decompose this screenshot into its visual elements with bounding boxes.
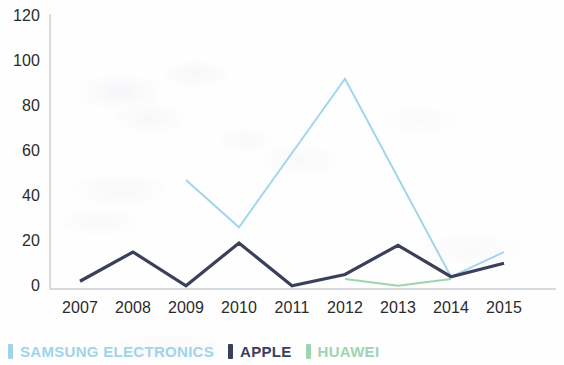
legend-swatch-huawei <box>306 344 311 359</box>
legend-item-apple[interactable]: APPLE <box>228 343 292 360</box>
chart-container: 0 20 40 60 80 100 120 2007 2008 2009 201… <box>0 0 564 365</box>
series-line-apple <box>80 243 504 286</box>
legend-label-samsung-electronics: SAMSUNG ELECTRONICS <box>20 343 214 360</box>
series-lines-group <box>80 79 504 286</box>
legend-swatch-samsung-electronics <box>8 344 13 359</box>
legend-swatch-apple <box>228 344 233 359</box>
legend-item-samsung-electronics[interactable]: SAMSUNG ELECTRONICS <box>8 343 214 360</box>
plot-area <box>0 0 564 365</box>
chart-legend: SAMSUNG ELECTRONICS APPLE HUAWEI <box>8 340 379 362</box>
legend-label-apple: APPLE <box>240 343 292 360</box>
series-line-huawei <box>345 279 451 286</box>
legend-item-huawei[interactable]: HUAWEI <box>306 343 380 360</box>
legend-label-huawei: HUAWEI <box>318 343 380 360</box>
